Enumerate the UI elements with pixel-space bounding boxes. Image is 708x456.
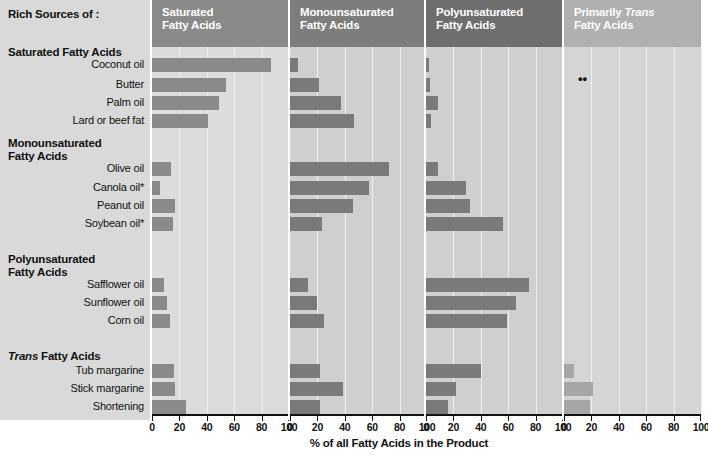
axis-line-saturated (152, 414, 289, 416)
gridline-80 (262, 47, 263, 414)
bar-monounsaturated-soybean-oil (290, 217, 322, 231)
gridline-60 (372, 47, 373, 414)
bar-polyunsaturated-olive-oil (426, 162, 438, 176)
group-heading-trans: Trans Fatty Acids (8, 350, 100, 363)
axis-tick-label-0: 0 (149, 421, 155, 433)
row-label-tub-margarine: Tub margarine (2, 364, 144, 376)
bar-polyunsaturated-shortening (426, 400, 448, 414)
axis-tick-label-80: 80 (668, 421, 679, 433)
axis-tick-label-0: 0 (561, 421, 567, 433)
panel-title-line2: Fatty Acids (162, 19, 289, 32)
row-label-sunflower-oil: Sunflower oil (2, 296, 144, 308)
group-heading-sat: Saturated Fatty Acids (8, 46, 122, 59)
panel-header-monounsaturated: MonounsaturatedFatty Acids (290, 0, 427, 47)
axis-line-polyunsaturated (426, 414, 563, 416)
axis-title-text: % of all Fatty Acids in the Product (220, 437, 489, 449)
bar-monounsaturated-corn-oil (290, 314, 324, 328)
axis-tick-label-20: 20 (586, 421, 597, 433)
bar-polyunsaturated-soybean-oil (426, 217, 503, 231)
bar-polyunsaturated-stick-margarine (426, 382, 456, 396)
bar-polyunsaturated-lard-or-beef-fat (426, 114, 431, 128)
row-label-column: Rich Sources of : Saturated Fatty AcidsM… (0, 0, 150, 420)
axis-tick-label-40: 40 (613, 421, 624, 433)
bar-polyunsaturated-sunflower-oil (426, 296, 516, 310)
axis-tick-label-20: 20 (174, 421, 185, 433)
axis-tick-label-60: 60 (229, 421, 240, 433)
axis-tick-label-40: 40 (475, 421, 486, 433)
panel-monounsaturated: MonounsaturatedFatty Acids020406080100 (290, 0, 427, 420)
chart-figure: Rich Sources of : Saturated Fatty AcidsM… (0, 0, 708, 456)
row-label-palm-oil: Palm oil (2, 96, 144, 108)
axis-tick-label-80: 80 (256, 421, 267, 433)
gridline-80 (536, 47, 537, 414)
axis-tick-label-100: 100 (693, 421, 708, 433)
gridline-100 (701, 47, 702, 414)
bar-saturated-shortening (152, 400, 186, 414)
axis-line-primarily-trans (564, 414, 701, 416)
bar-polyunsaturated-safflower-oil (426, 278, 529, 292)
bar-monounsaturated-canola-oil (290, 181, 369, 195)
panel-separator-2 (562, 0, 564, 420)
axis-tick-label-0: 0 (287, 421, 293, 433)
axis-tick-label-40: 40 (201, 421, 212, 433)
bar-monounsaturated-tub-margarine (290, 364, 320, 378)
panel-separator-1 (424, 0, 426, 420)
bar-monounsaturated-butter (290, 78, 319, 92)
panel-header-primarily-trans: Primarily TransFatty Acids (564, 0, 701, 47)
plot-area-primarily-trans (564, 47, 701, 414)
row-label-lard-or-beef-fat: Lard or beef fat (2, 114, 144, 126)
row-label-butter: Butter (2, 78, 144, 90)
axis-tick-label-60: 60 (367, 421, 378, 433)
row-label-corn-oil: Corn oil (2, 314, 144, 326)
panel-primarily-trans: Primarily TransFatty Acids020406080100 (564, 0, 701, 420)
bar-polyunsaturated-tub-margarine (426, 364, 481, 378)
axis-tick-label-80: 80 (530, 421, 541, 433)
bar-polyunsaturated-canola-oil (426, 181, 466, 195)
figure-title: Rich Sources of : (8, 8, 99, 20)
row-label-soybean-oil: Soybean oil* (2, 217, 144, 229)
bar-primarily-trans-tub-margarine (564, 364, 574, 378)
bar-polyunsaturated-butter (426, 78, 430, 92)
bar-monounsaturated-stick-margarine (290, 382, 343, 396)
row-label-coconut-oil: Coconut oil (2, 58, 144, 70)
bar-saturated-tub-margarine (152, 364, 174, 378)
bar-primarily-trans-shortening (564, 400, 590, 414)
bar-saturated-corn-oil (152, 314, 170, 328)
bar-monounsaturated-peanut-oil (290, 199, 353, 213)
bar-monounsaturated-lard-or-beef-fat (290, 114, 354, 128)
axis-tick-label-0: 0 (423, 421, 429, 433)
bar-saturated-stick-margarine (152, 382, 175, 396)
bar-monounsaturated-olive-oil (290, 162, 389, 176)
bar-polyunsaturated-coconut-oil (426, 58, 429, 72)
group-heading-mono: MonounsaturatedFatty Acids (8, 137, 148, 162)
bar-polyunsaturated-peanut-oil (426, 199, 470, 213)
panel-title-line1: Saturated (162, 6, 289, 19)
bar-monounsaturated-sunflower-oil (290, 296, 317, 310)
bar-saturated-coconut-oil (152, 58, 271, 72)
row-label-olive-oil: Olive oil (2, 162, 144, 174)
axis-tick-label-20: 20 (448, 421, 459, 433)
panel-title-line2: Fatty Acids (300, 19, 427, 32)
gridline-40 (345, 47, 346, 414)
panel-title-line1: Primarily Trans (574, 6, 701, 19)
footnote-marker-icon: •• (578, 75, 587, 83)
axis-tick-label-20: 20 (312, 421, 323, 433)
bar-monounsaturated-safflower-oil (290, 278, 308, 292)
panel-title-line1: Polyunsaturated (436, 6, 563, 19)
panel-title-line1: Monounsaturated (300, 6, 427, 19)
bar-saturated-palm-oil (152, 96, 219, 110)
panel-header-polyunsaturated: PolyunsaturatedFatty Acids (426, 0, 563, 47)
panel-header-saturated: SaturatedFatty Acids (152, 0, 289, 47)
bar-saturated-lard-or-beef-fat (152, 114, 208, 128)
group-heading-poly: PolyunsaturatedFatty Acids (8, 253, 148, 278)
axis-tick-label-80: 80 (394, 421, 405, 433)
bar-monounsaturated-palm-oil (290, 96, 341, 110)
gridline-80 (400, 47, 401, 414)
bar-saturated-olive-oil (152, 162, 171, 176)
panel-title-line2: Fatty Acids (436, 19, 563, 32)
panel-polyunsaturated: PolyunsaturatedFatty Acids020406080100 (426, 0, 563, 420)
panel-title-line2: Fatty Acids (574, 19, 701, 32)
axis-tick-label-40: 40 (339, 421, 350, 433)
gridline-80 (674, 47, 675, 414)
axis-tick-label-60: 60 (641, 421, 652, 433)
